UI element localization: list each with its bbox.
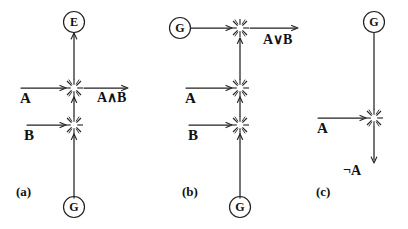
panel-c-node-g-top-label: G bbox=[368, 16, 380, 28]
panel-a-node-g-label: G bbox=[68, 201, 80, 213]
panel-a-output-label: A∧B bbox=[97, 91, 126, 105]
panel-b-node-g-left-label: G bbox=[174, 22, 186, 34]
panel-a-input-b-label: B bbox=[24, 128, 34, 143]
panel-b-output-label: A∨B bbox=[263, 33, 292, 47]
panel-b-caption: (b) bbox=[182, 185, 198, 198]
panel-c-output-label: ¬A bbox=[343, 164, 361, 178]
panel-a-caption: (a) bbox=[16, 185, 31, 198]
panel-c-caption: (c) bbox=[316, 185, 330, 198]
panel-b-node-g-bottom-label: G bbox=[234, 201, 246, 213]
circuit-drawing bbox=[0, 0, 408, 229]
junction-sparks bbox=[65, 19, 383, 134]
panel-a-input-a-label: A bbox=[20, 91, 31, 106]
panel-c-input-a-label: A bbox=[317, 121, 328, 136]
panel-a-node-e-label: E bbox=[68, 16, 80, 28]
figure-canvas: E G A B A∧B (a) G G A B A∨B (b) G A ¬A (… bbox=[0, 0, 408, 229]
panel-b-input-a-label: A bbox=[185, 91, 196, 106]
panel-b-input-b-label: B bbox=[188, 128, 198, 143]
